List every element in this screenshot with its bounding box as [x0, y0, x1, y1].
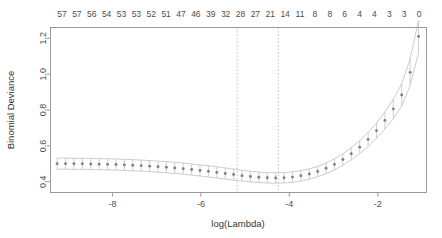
data-point — [392, 107, 395, 110]
y-tick-label: 0.8 — [38, 104, 48, 117]
data-point — [173, 166, 176, 169]
data-point — [308, 173, 311, 176]
y-tick-label: 1.2 — [38, 32, 48, 45]
data-point — [400, 93, 403, 96]
top-axis-tick-label: 21 — [266, 9, 276, 19]
data-point — [224, 172, 227, 175]
top-axis-tick-label: 57 — [57, 9, 67, 19]
data-point — [115, 163, 118, 166]
data-point — [165, 166, 168, 169]
data-point — [232, 173, 235, 176]
top-axis-tick-label: 4 — [357, 9, 362, 19]
data-point — [98, 163, 101, 166]
top-axis-tick-label: 0 — [417, 9, 422, 19]
top-axis-tick-label: 54 — [102, 9, 112, 19]
data-point — [123, 163, 126, 166]
y-tick-label: 0.6 — [38, 140, 48, 153]
top-axis-tick-label: 27 — [251, 9, 261, 19]
data-point — [333, 163, 336, 166]
data-point — [199, 169, 202, 172]
top-axis-tick-label: 4 — [372, 9, 377, 19]
data-point — [257, 176, 260, 179]
data-point — [81, 162, 84, 165]
x-axis-title: log(Lambda) — [211, 218, 264, 229]
data-point — [299, 174, 302, 177]
top-axis-tick-label: 56 — [87, 9, 97, 19]
data-point — [89, 163, 92, 166]
data-point — [215, 171, 218, 174]
data-point — [182, 167, 185, 170]
data-point — [274, 177, 277, 180]
top-axis-tick-label: 47 — [176, 9, 186, 19]
data-point — [207, 170, 210, 173]
data-point — [148, 165, 151, 168]
data-point — [157, 165, 160, 168]
top-axis-tick-label: 52 — [147, 9, 157, 19]
data-point — [409, 71, 412, 74]
top-axis-tick-label: 8 — [327, 9, 332, 19]
top-axis-tick-label: 51 — [161, 9, 171, 19]
data-point — [316, 170, 319, 173]
x-tick-label: -6 — [197, 199, 205, 209]
top-axis-tick-label: 39 — [206, 9, 216, 19]
data-point — [358, 146, 361, 149]
y-tick-label: 0.4 — [38, 175, 48, 188]
top-axis-tick-label: 53 — [132, 9, 142, 19]
top-axis-tick-label: 28 — [236, 9, 246, 19]
top-axis-tick-label: 3 — [402, 9, 407, 19]
data-point — [383, 119, 386, 122]
top-axis-tick-label: 6 — [342, 9, 347, 19]
data-point — [266, 176, 269, 179]
data-point — [375, 129, 378, 132]
top-axis-tick-label: 53 — [117, 9, 127, 19]
data-point — [131, 164, 134, 167]
top-axis-tick-label: 32 — [221, 9, 231, 19]
y-axis-title: Binomial Deviance — [5, 71, 16, 150]
x-tick-label: -2 — [374, 199, 382, 209]
data-point — [241, 174, 244, 177]
data-point — [350, 152, 353, 155]
top-axis-tick-label: 11 — [296, 9, 305, 19]
data-point — [56, 162, 59, 165]
top-axis-tick-label: 57 — [72, 9, 82, 19]
top-axis-tick-label: 3 — [387, 9, 392, 19]
data-point — [64, 162, 67, 165]
data-point — [417, 35, 420, 38]
data-point — [325, 167, 328, 170]
data-point — [190, 168, 193, 171]
data-point — [72, 162, 75, 165]
chart-root: 0.40.60.81.01.2 -8-6-4-2 575756545353525… — [0, 0, 442, 238]
binomial-deviance-cv-plot: 0.40.60.81.01.2 -8-6-4-2 575756545353525… — [0, 0, 442, 238]
data-point — [291, 176, 294, 179]
top-axis-tick-label: 46 — [191, 9, 201, 19]
x-tick-label: -8 — [108, 199, 116, 209]
data-point — [106, 163, 109, 166]
x-tick-label: -4 — [285, 199, 293, 209]
data-point — [367, 138, 370, 141]
top-axis-tick-label: 14 — [280, 9, 290, 19]
top-axis-tick-label: 8 — [313, 9, 318, 19]
data-point — [249, 175, 252, 178]
data-point — [140, 164, 143, 167]
data-point — [283, 176, 286, 179]
y-tick-label: 1.0 — [38, 68, 48, 81]
data-point — [341, 158, 344, 161]
